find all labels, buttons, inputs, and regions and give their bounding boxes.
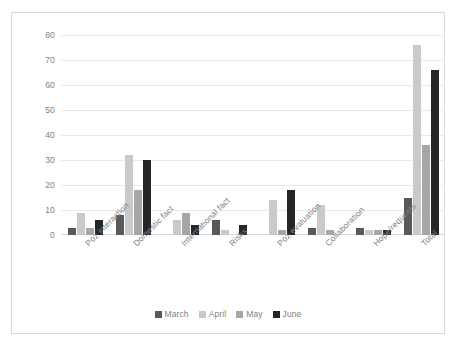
y-axis-tick-label: 0 bbox=[50, 230, 55, 240]
bar[interactable] bbox=[308, 228, 316, 236]
chart-container: 80706050403020100 Poz interactionDomesti… bbox=[0, 0, 456, 350]
y-axis-tick-label: 50 bbox=[45, 105, 55, 115]
legend-label: May bbox=[246, 309, 262, 319]
bar[interactable] bbox=[125, 155, 133, 235]
bar[interactable] bbox=[221, 230, 229, 235]
bar[interactable] bbox=[356, 228, 364, 236]
legend-item[interactable]: May bbox=[236, 309, 262, 319]
bar[interactable] bbox=[212, 220, 220, 235]
bar-group bbox=[109, 35, 157, 235]
legend-swatch-icon bbox=[236, 311, 243, 318]
chart-frame: 80706050403020100 Poz interactionDomesti… bbox=[11, 12, 445, 334]
bar[interactable] bbox=[365, 230, 373, 235]
legend-swatch-icon bbox=[199, 311, 206, 318]
legend-item[interactable]: March bbox=[155, 309, 189, 319]
legend-item[interactable]: June bbox=[273, 309, 302, 319]
bar[interactable] bbox=[134, 190, 142, 235]
x-axis-label-slot: Risks bbox=[205, 237, 253, 307]
y-axis-tick-label: 70 bbox=[45, 55, 55, 65]
legend-item[interactable]: April bbox=[199, 309, 227, 319]
bar-group bbox=[397, 35, 445, 235]
x-axis-label-slot: Poz evaluation bbox=[253, 237, 301, 307]
y-axis-tick-label: 10 bbox=[45, 205, 55, 215]
bar[interactable] bbox=[431, 70, 439, 235]
legend-swatch-icon bbox=[155, 311, 162, 318]
bar-group bbox=[157, 35, 205, 235]
bar[interactable] bbox=[68, 228, 76, 236]
plot-wrapper: 80706050403020100 Poz interactionDomesti… bbox=[35, 35, 445, 253]
legend-swatch-icon bbox=[273, 311, 280, 318]
chart-legend: MarchAprilMayJune bbox=[12, 309, 444, 319]
x-axis-label-slot: Hope/requests bbox=[349, 237, 397, 307]
legend-label: April bbox=[209, 309, 227, 319]
y-axis-tick-label: 20 bbox=[45, 180, 55, 190]
y-axis-tick-label: 60 bbox=[45, 80, 55, 90]
y-axis-tick-label: 80 bbox=[45, 30, 55, 40]
bar[interactable] bbox=[422, 145, 430, 235]
bar-group bbox=[253, 35, 301, 235]
x-axis-label-slot: International fact bbox=[157, 237, 205, 307]
bar-group bbox=[61, 35, 109, 235]
legend-label: March bbox=[165, 309, 189, 319]
legend-label: June bbox=[283, 309, 302, 319]
bar-group bbox=[301, 35, 349, 235]
x-axis-labels: Poz interactionDomestic factInternationa… bbox=[61, 237, 445, 307]
bar[interactable] bbox=[269, 200, 277, 235]
x-axis-label-slot: Domestic fact bbox=[109, 237, 157, 307]
x-axis-label-slot: Collaboration bbox=[301, 237, 349, 307]
x-axis-label-slot: Total bbox=[397, 237, 445, 307]
x-axis-label-slot: Poz interaction bbox=[61, 237, 109, 307]
y-axis-tick-label: 30 bbox=[45, 155, 55, 165]
y-axis-tick-label: 40 bbox=[45, 130, 55, 140]
bar[interactable] bbox=[77, 213, 85, 236]
bar[interactable] bbox=[173, 220, 181, 235]
y-axis: 80706050403020100 bbox=[35, 35, 59, 235]
bar-group bbox=[349, 35, 397, 235]
